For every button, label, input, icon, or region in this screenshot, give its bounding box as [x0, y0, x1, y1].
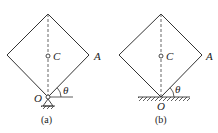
- caption-b: (b): [155, 114, 167, 126]
- center-point: [46, 54, 50, 58]
- label-theta: θ: [175, 83, 181, 95]
- angle-arc: [170, 88, 174, 97]
- support-triangle-icon: [43, 99, 53, 106]
- label-o: O: [34, 92, 42, 104]
- center-point: [159, 54, 163, 58]
- caption-a: (a): [41, 114, 52, 126]
- figure: C A θ O (a) C A θ O (b): [0, 0, 218, 133]
- ground-hatch: [41, 106, 55, 109]
- label-c: C: [166, 50, 174, 62]
- label-theta: θ: [63, 84, 69, 96]
- label-a: A: [93, 50, 101, 62]
- panel-a: C A θ O (a): [7, 14, 101, 126]
- panel-b: C A θ O (b): [119, 14, 213, 126]
- label-c: C: [53, 50, 61, 62]
- label-a: A: [205, 50, 213, 62]
- label-o: O: [157, 100, 165, 112]
- angle-arc: [57, 88, 61, 97]
